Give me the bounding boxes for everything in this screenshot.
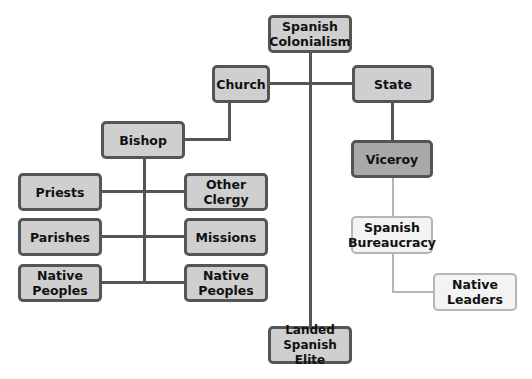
connector-church-bishop-h: [185, 138, 231, 141]
node-native-peoples-left: Native Peoples: [18, 264, 102, 302]
connector-bureaucracy-leaders-h: [392, 291, 434, 293]
node-landed-spanish-elite: Landed Spanish Elite: [268, 326, 352, 364]
connector-bureaucracy-leaders-v: [392, 253, 394, 293]
node-missions: Missions: [184, 218, 268, 256]
node-other-clergy: Other Clergy: [184, 173, 268, 211]
node-state: State: [352, 65, 434, 103]
connector-colonialism-trunk: [309, 52, 312, 326]
node-viceroy: Viceroy: [351, 140, 433, 178]
connector-state-viceroy: [391, 102, 394, 140]
node-bishop: Bishop: [101, 121, 185, 159]
node-spanish-bureaucracy: Spanish Bureaucracy: [351, 216, 433, 254]
connector-church-state: [270, 82, 352, 85]
node-priests: Priests: [18, 173, 102, 211]
node-native-peoples-right: Native Peoples: [184, 264, 268, 302]
node-native-leaders: Native Leaders: [433, 273, 517, 311]
connector-priests-clergy: [102, 190, 184, 193]
connector-native-peoples: [102, 281, 184, 284]
node-spanish-colonialism: Spanish Colonialism: [268, 15, 352, 53]
connector-parishes-missions: [102, 235, 184, 238]
connector-bishop-trunk: [143, 158, 146, 282]
connector-viceroy-bureaucracy: [392, 177, 394, 216]
connector-church-bishop-v: [228, 102, 231, 141]
node-parishes: Parishes: [18, 218, 102, 256]
node-church: Church: [212, 65, 270, 103]
